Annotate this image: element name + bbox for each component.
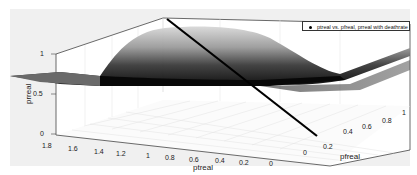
legend[interactable]: ptreal vs. pfreal, prreal with deathrate <box>302 21 410 31</box>
svg-text:0.6: 0.6 <box>362 123 372 130</box>
svg-text:1: 1 <box>40 50 44 57</box>
svg-text:1.4: 1.4 <box>94 148 104 155</box>
svg-text:0.8: 0.8 <box>165 154 175 161</box>
svg-text:1: 1 <box>402 109 406 116</box>
x-axis-label: ptreal <box>193 163 213 172</box>
svg-text:0: 0 <box>303 149 307 156</box>
svg-text:0: 0 <box>40 130 44 137</box>
legend-marker-icon <box>309 26 312 29</box>
z-axis-label: prreal <box>24 83 33 104</box>
svg-text:1: 1 <box>146 152 150 159</box>
svg-text:0: 0 <box>269 160 273 167</box>
svg-text:0.5: 0.5 <box>33 90 43 97</box>
svg-text:1.8: 1.8 <box>42 142 52 149</box>
svg-text:0.2: 0.2 <box>239 159 249 166</box>
svg-text:0.8: 0.8 <box>382 117 392 124</box>
legend-entry: ptreal vs. pfreal, prreal with deathrate <box>317 24 408 30</box>
svg-text:1.6: 1.6 <box>68 145 78 152</box>
svg-text:0.2: 0.2 <box>323 143 333 150</box>
y-axis-label: pfreal <box>340 152 360 161</box>
svg-text:0.4: 0.4 <box>215 157 225 164</box>
svg-text:1.2: 1.2 <box>116 150 126 157</box>
svg-text:0.6: 0.6 <box>189 156 199 163</box>
svg-text:0.4: 0.4 <box>343 128 353 135</box>
z-axis: 1 0.5 0 prreal <box>24 50 56 137</box>
